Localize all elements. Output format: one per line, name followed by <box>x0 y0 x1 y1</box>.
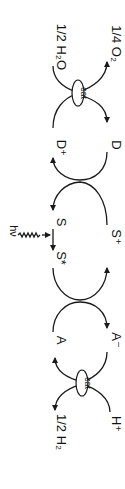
water-splitting-diagram: cat 1/2 H₂O 1/4 O₂ D⁺ D S S* S⁺ hν A A⁻ … <box>0 0 125 489</box>
a-to-aminus-arc <box>53 302 107 332</box>
top-catalyst-cycle: cat <box>53 62 107 128</box>
h2-label: 1/2 H₂ <box>54 414 69 450</box>
cat-bottom-label: cat <box>83 377 93 390</box>
s-plus-label: S⁺ <box>109 229 124 245</box>
light-input: hν <box>8 225 50 237</box>
d-label: D <box>109 140 124 149</box>
sensitizer-acceptor-exchange <box>53 268 107 332</box>
bottom-catalyst-cycle: cat <box>55 352 110 412</box>
h2o-label: 1/2 H₂O <box>54 24 69 70</box>
s-label: S <box>54 218 69 227</box>
hv-label: hν <box>8 225 20 237</box>
s-star-label: S* <box>54 251 69 265</box>
wavy-light-icon <box>18 233 40 237</box>
cat-top-label: cat <box>79 87 89 100</box>
h-plus-label: H⁺ <box>109 416 124 432</box>
a-minus-label: A⁻ <box>109 332 124 348</box>
donor-sensitizer-exchange <box>53 152 107 225</box>
dplus-label: D⁺ <box>54 140 69 156</box>
o2-label: 1/4 O₂ <box>109 25 124 62</box>
a-label: A <box>54 336 69 345</box>
sstar-to-splus-arc <box>53 268 107 300</box>
